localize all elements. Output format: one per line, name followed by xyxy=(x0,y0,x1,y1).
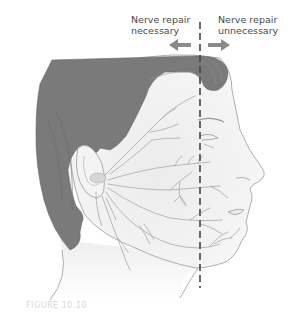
facial-nerve-illustration xyxy=(0,0,292,312)
label-nerve-repair-necessary: Nerve repair necessary xyxy=(131,14,190,36)
label-nerve-repair-unnecessary: Nerve repair unnecessary xyxy=(218,14,278,36)
label-right-line2: unnecessary xyxy=(218,25,278,36)
label-left-line1: Nerve repair xyxy=(131,14,190,25)
arrow-left-icon xyxy=(169,39,191,51)
parotid-gland xyxy=(90,173,106,183)
label-left-line2: necessary xyxy=(131,25,190,36)
label-right-line1: Nerve repair xyxy=(218,14,278,25)
arrow-right-icon xyxy=(208,39,230,51)
figure-caption: FIGURE 10.10 xyxy=(26,301,87,310)
